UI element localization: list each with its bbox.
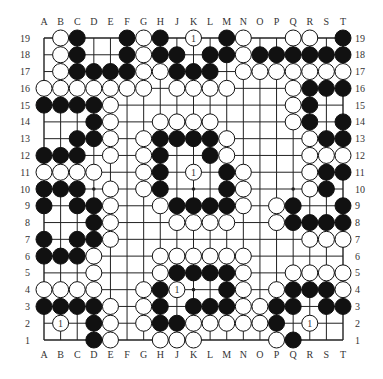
- white-stone: [269, 215, 285, 231]
- white-stone: [318, 231, 334, 247]
- black-stone: [69, 298, 85, 314]
- white-stone: [335, 64, 351, 80]
- white-stone: [102, 97, 118, 113]
- white-stone: [185, 114, 201, 130]
- black-stone: [69, 131, 85, 147]
- row-label-right: 3: [355, 301, 360, 312]
- black-stone: [36, 147, 52, 163]
- black-stone: [185, 131, 201, 147]
- black-stone: [335, 298, 351, 314]
- row-label-left: 6: [25, 251, 30, 262]
- row-label-right: 15: [355, 100, 365, 111]
- black-stone: [86, 114, 102, 130]
- black-stone: [285, 215, 301, 231]
- white-stone: [302, 265, 318, 281]
- black-stone: [219, 198, 235, 214]
- white-stone: [69, 164, 85, 180]
- black-stone: [86, 298, 102, 314]
- black-stone: [285, 47, 301, 63]
- row-label-right: 10: [355, 184, 365, 195]
- column-label-top: D: [90, 16, 97, 27]
- white-stone: [235, 298, 251, 314]
- black-stone: [302, 80, 318, 96]
- black-stone: [252, 47, 268, 63]
- white-stone: [185, 315, 201, 331]
- column-label-top: H: [157, 16, 164, 27]
- column-label-top: N: [240, 16, 247, 27]
- white-stone: [252, 298, 268, 314]
- black-stone: [285, 298, 301, 314]
- black-stone: [152, 131, 168, 147]
- white-stone: [69, 282, 85, 298]
- black-stone: [152, 315, 168, 331]
- white-stone: [185, 332, 201, 348]
- column-label-bottom: T: [340, 349, 346, 360]
- black-stone: [318, 298, 334, 314]
- black-stone: [53, 248, 69, 264]
- column-label-top: M: [222, 16, 231, 27]
- black-stone: [202, 64, 218, 80]
- column-label-bottom: Q: [290, 349, 298, 360]
- white-stone: [335, 147, 351, 163]
- row-label-right: 5: [355, 267, 360, 278]
- white-stone: [269, 64, 285, 80]
- black-stone: [285, 332, 301, 348]
- white-stone: [152, 64, 168, 80]
- black-stone: [152, 164, 168, 180]
- white-stone: [102, 181, 118, 197]
- white-stone: [136, 64, 152, 80]
- column-label-top: G: [140, 16, 147, 27]
- black-stone: [102, 64, 118, 80]
- white-stone: [152, 265, 168, 281]
- white-stone: [202, 315, 218, 331]
- move-number-label: 1: [307, 318, 312, 329]
- white-stone: [202, 80, 218, 96]
- white-stone: [86, 265, 102, 281]
- black-stone: [302, 215, 318, 231]
- white-stone: [119, 80, 135, 96]
- black-stone: [219, 164, 235, 180]
- black-stone: [86, 231, 102, 247]
- black-stone: [318, 131, 334, 147]
- black-stone: [202, 265, 218, 281]
- white-stone: [219, 215, 235, 231]
- column-label-top: J: [175, 16, 179, 27]
- white-stone: [136, 30, 152, 46]
- black-stone: [219, 265, 235, 281]
- row-label-left: 2: [25, 318, 30, 329]
- white-stone: [169, 114, 185, 130]
- column-label-bottom: N: [240, 349, 247, 360]
- black-stone: [152, 147, 168, 163]
- column-label-bottom: B: [57, 349, 64, 360]
- white-stone: [335, 231, 351, 247]
- row-label-left: 9: [25, 200, 30, 211]
- column-label-top: A: [40, 16, 48, 27]
- row-label-left: 19: [20, 33, 30, 44]
- white-stone: [318, 265, 334, 281]
- black-stone: [169, 198, 185, 214]
- white-stone: [219, 248, 235, 264]
- black-stone: [302, 97, 318, 113]
- black-stone: [152, 181, 168, 197]
- black-stone: [69, 97, 85, 113]
- row-label-right: 6: [355, 251, 360, 262]
- white-stone: [318, 147, 334, 163]
- black-stone: [86, 64, 102, 80]
- white-stone: [235, 282, 251, 298]
- black-stone: [202, 298, 218, 314]
- white-stone: [53, 80, 69, 96]
- white-stone: [235, 64, 251, 80]
- row-label-right: 11: [355, 167, 365, 178]
- star-point: [192, 187, 196, 191]
- white-stone: [136, 181, 152, 197]
- black-stone: [335, 47, 351, 63]
- white-stone: [86, 248, 102, 264]
- black-stone: [318, 181, 334, 197]
- column-label-bottom: K: [190, 349, 198, 360]
- row-label-left: 17: [20, 66, 30, 77]
- white-stone: [285, 265, 301, 281]
- black-stone: [53, 147, 69, 163]
- black-stone: [86, 97, 102, 113]
- black-stone: [169, 47, 185, 63]
- row-label-right: 8: [355, 217, 360, 228]
